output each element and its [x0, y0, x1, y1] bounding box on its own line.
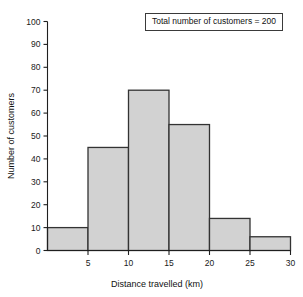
legend-box: Total number of customers = 200	[145, 13, 283, 31]
x-tick-label: 25	[245, 258, 255, 268]
y-ticks-group: 0102030405060708090100	[26, 17, 47, 256]
y-tick-label: 100	[26, 17, 40, 27]
bars-group	[48, 90, 291, 250]
x-tick-label: 30	[286, 258, 296, 268]
histogram-bar	[169, 125, 210, 251]
legend-text: Total number of customers = 200	[152, 16, 276, 26]
x-ticks-group: 51015202530	[86, 251, 296, 268]
histogram-bar	[250, 237, 291, 251]
x-axis-title: Distance travelled (km)	[111, 279, 203, 289]
y-tick-label: 10	[31, 223, 41, 233]
y-tick-label: 30	[31, 177, 41, 187]
y-tick-label: 60	[31, 108, 41, 118]
y-tick-label: 80	[31, 62, 41, 72]
y-axis-title: Number of customers	[6, 92, 16, 179]
histogram-bar	[129, 90, 170, 250]
y-tick-label: 50	[31, 131, 41, 141]
histogram-bar	[88, 147, 129, 250]
y-tick-label: 70	[31, 85, 41, 95]
y-tick-label: 40	[31, 154, 41, 164]
histogram-bar	[48, 228, 89, 251]
y-tick-label: 0	[36, 246, 41, 256]
histogram-bar	[210, 218, 251, 250]
y-tick-label: 90	[31, 39, 41, 49]
x-tick-label: 15	[164, 258, 174, 268]
y-tick-label: 20	[31, 200, 41, 210]
x-tick-label: 10	[124, 258, 134, 268]
x-tick-label: 20	[205, 258, 215, 268]
histogram-chart: 0102030405060708090100 51015202530 Dista…	[0, 0, 303, 297]
x-tick-label: 5	[86, 258, 91, 268]
histogram-figure: 0102030405060708090100 51015202530 Dista…	[0, 0, 303, 297]
